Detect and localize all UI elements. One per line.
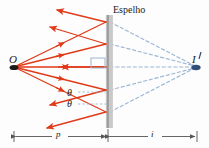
angle-label-incidence: θ <box>67 88 72 98</box>
incident-arrow-4 <box>56 78 64 80</box>
mirror-label: Espelho <box>113 5 145 15</box>
image-label: I <box>192 54 196 65</box>
mirror-reflection-diagram: O I Espelho θ θ p i <box>0 0 209 148</box>
virtual-ray-2 <box>110 44 195 66</box>
diagram-canvas <box>0 0 209 148</box>
mirror-back-plate <box>109 15 113 128</box>
reflected-ray-5 <box>47 112 106 128</box>
mirror-reflective-face <box>107 15 109 128</box>
angle-label-reflection: θ <box>67 99 72 109</box>
virtual-ray-1 <box>110 22 195 66</box>
dimension-rulers <box>14 129 197 142</box>
incident-arrow-1 <box>56 43 64 47</box>
virtual-ray-5 <box>110 68 195 112</box>
object-point <box>10 65 19 70</box>
mirror-highlight-edge <box>106 15 107 128</box>
image-distance-label: i <box>151 130 154 139</box>
mirror-group <box>106 15 113 128</box>
object-distance-label: p <box>56 130 61 139</box>
incident-arrow-5 <box>56 88 64 92</box>
object-label: O <box>9 54 17 65</box>
reflected-ray-2 <box>50 27 106 44</box>
virtual-rays-group <box>110 22 195 112</box>
virtual-ray-4 <box>110 68 195 90</box>
reflected-rays-group <box>47 10 106 128</box>
incident-arrow-2 <box>56 55 64 57</box>
reflected-ray-1 <box>57 10 106 22</box>
